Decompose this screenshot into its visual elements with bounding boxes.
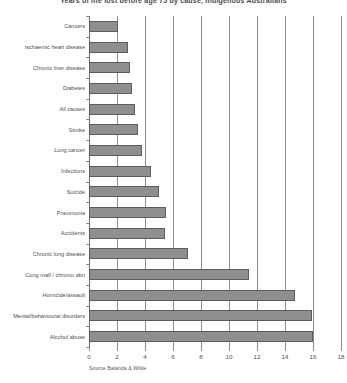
bar bbox=[89, 186, 159, 197]
y-tick bbox=[86, 306, 89, 307]
category-label: Accidents bbox=[0, 229, 85, 237]
category-label: Chronic lung disease bbox=[0, 250, 85, 258]
y-tick bbox=[86, 244, 89, 245]
bar-row bbox=[89, 306, 341, 327]
x-tick-label: 14 bbox=[275, 352, 295, 361]
chart-title: Years of life lost before age 75 by caus… bbox=[0, 0, 347, 5]
bar bbox=[89, 104, 135, 115]
category-label: All causes bbox=[0, 105, 85, 113]
x-tick bbox=[285, 347, 286, 351]
bar-row bbox=[89, 244, 341, 265]
x-axis-baseline bbox=[89, 347, 341, 348]
category-label: Mental/behavioural disorders bbox=[0, 312, 85, 320]
x-tick-label: 18 bbox=[331, 352, 347, 361]
category-label: Lung cancer bbox=[0, 146, 85, 154]
x-tick-label: 12 bbox=[247, 352, 267, 361]
bars-group bbox=[89, 16, 341, 347]
bar bbox=[89, 145, 142, 156]
bar-row bbox=[89, 16, 341, 37]
bar-row bbox=[89, 264, 341, 285]
y-tick bbox=[86, 285, 89, 286]
category-label: Alcohol abuse bbox=[0, 333, 85, 341]
bar bbox=[89, 166, 151, 177]
source-caption: Source Balanda & Wilde bbox=[89, 364, 146, 372]
bar-row bbox=[89, 182, 341, 203]
x-tick bbox=[313, 347, 314, 351]
y-tick bbox=[86, 16, 89, 17]
y-tick bbox=[86, 223, 89, 224]
bar bbox=[89, 269, 249, 280]
x-tick-label: 10 bbox=[219, 352, 239, 361]
bar bbox=[89, 310, 312, 321]
x-tick bbox=[229, 347, 230, 351]
bar-row bbox=[89, 57, 341, 78]
bar bbox=[89, 248, 188, 259]
bar-row bbox=[89, 202, 341, 223]
category-label: Suicide bbox=[0, 188, 85, 196]
bar bbox=[89, 228, 165, 239]
bar bbox=[89, 124, 138, 135]
bar-row bbox=[89, 99, 341, 120]
bar bbox=[89, 331, 313, 342]
bar bbox=[89, 62, 130, 73]
category-label: Infections bbox=[0, 167, 85, 175]
x-tick-label: 4 bbox=[135, 352, 155, 361]
y-tick bbox=[86, 99, 89, 100]
bar-chart: Years of life lost before age 75 by caus… bbox=[0, 0, 347, 383]
category-label: Cancers bbox=[0, 22, 85, 30]
x-tick bbox=[341, 347, 342, 351]
bar-row bbox=[89, 161, 341, 182]
x-tick-label: 0 bbox=[79, 352, 99, 361]
category-label: Pneumonia bbox=[0, 209, 85, 217]
category-label: Chronic liver disease bbox=[0, 64, 85, 72]
x-tick-label: 16 bbox=[303, 352, 323, 361]
y-tick bbox=[86, 264, 89, 265]
x-tick-label: 8 bbox=[191, 352, 211, 361]
y-tick bbox=[86, 57, 89, 58]
bar-row bbox=[89, 37, 341, 58]
gridline-18 bbox=[341, 16, 342, 347]
bar-row bbox=[89, 285, 341, 306]
x-tick bbox=[117, 347, 118, 351]
x-tick bbox=[89, 347, 90, 351]
y-tick bbox=[86, 182, 89, 183]
x-tick bbox=[173, 347, 174, 351]
bar bbox=[89, 21, 118, 32]
y-axis-ticks bbox=[86, 16, 89, 347]
bar bbox=[89, 290, 295, 301]
bar bbox=[89, 207, 166, 218]
bar bbox=[89, 83, 132, 94]
y-tick bbox=[86, 119, 89, 120]
x-tick bbox=[201, 347, 202, 351]
y-tick bbox=[86, 202, 89, 203]
y-tick bbox=[86, 161, 89, 162]
bar-row bbox=[89, 223, 341, 244]
bar-row bbox=[89, 119, 341, 140]
x-tick-label: 2 bbox=[107, 352, 127, 361]
x-tick bbox=[257, 347, 258, 351]
x-tick-label: 6 bbox=[163, 352, 183, 361]
category-label: Cong malf / chromo abn bbox=[0, 271, 85, 279]
category-label: Stroke bbox=[0, 126, 85, 134]
y-tick bbox=[86, 78, 89, 79]
y-tick bbox=[86, 140, 89, 141]
plot-area bbox=[89, 16, 341, 347]
category-label: Homicide/assault bbox=[0, 291, 85, 299]
bar-row bbox=[89, 78, 341, 99]
y-tick bbox=[86, 326, 89, 327]
bar bbox=[89, 42, 128, 53]
y-tick bbox=[86, 37, 89, 38]
category-label: Ischaemic heart disease bbox=[0, 43, 85, 51]
x-tick bbox=[145, 347, 146, 351]
bar-row bbox=[89, 326, 341, 347]
bar-row bbox=[89, 140, 341, 161]
x-axis-tick-labels: 024681012141618 bbox=[0, 352, 347, 362]
category-label: Diabetes bbox=[0, 84, 85, 92]
